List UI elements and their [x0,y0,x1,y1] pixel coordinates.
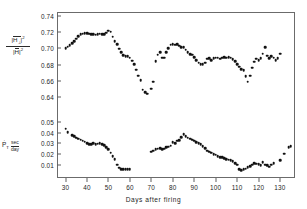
dot-accent: · [4,138,6,143]
upper-y-axis-label: |H⊥|2 |H|2 [4,36,32,55]
x-tick-label: 40 [83,184,91,191]
x-tick-mark [194,178,195,182]
x-tick-label: 110 [232,184,243,191]
lower-data-point [129,168,132,171]
upper-data-point [167,47,170,50]
lower-data-point [272,162,275,165]
t-subscript: T [6,146,9,151]
x-tick-label: 50 [105,184,113,191]
lower-y-tick-label: 0.04 [41,129,54,136]
upper-data-point [193,56,196,59]
lower-data-point [66,131,69,134]
x-tick-mark [151,178,152,182]
perp-subscript: ⊥ [18,40,21,45]
x-tick-mark [215,178,216,182]
upper-data-point [249,74,252,77]
upper-data-point [73,40,76,43]
upper-data-point [111,35,114,38]
upper-y-tick-label: 0.68 [41,61,54,68]
upper-data-point [133,63,136,66]
denominator-exponent: 2 [21,47,23,52]
upper-y-numerator: |H⊥|2 [4,36,32,46]
lower-y-tick-label: 0.01 [41,162,54,169]
upper-data-point [277,57,280,60]
upper-y-tick-label: 0.64 [41,94,54,101]
upper-y-tick-label: 0.74 [41,12,54,19]
upper-data-point [109,30,112,33]
x-tick-label: 90 [190,184,198,191]
upper-data-point [279,52,282,55]
upper-data-point [150,88,153,91]
upper-data-point [251,66,254,69]
upper-data-point [154,60,157,63]
upper-data-point [156,53,159,56]
scatter-figure: |H⊥|2 |H|2 P·T sec day 0.740.720.700.680… [0,0,307,209]
lower-data-point [64,128,67,131]
p-dot-symbol: P·T [2,141,9,150]
x-tick-label: 70 [148,184,156,191]
upper-data-point [137,74,140,77]
upper-data-point [244,75,247,78]
plot-area [57,12,295,178]
x-tick-label: 130 [274,184,285,191]
lower-y-axis-label: P·T sec day [2,140,36,152]
upper-data-point [118,47,121,50]
upper-data-point [75,37,78,40]
upper-data-point [71,42,74,45]
lower-data-point [107,148,110,151]
x-tick-mark [237,178,238,182]
upper-data-point [159,51,162,54]
upper-y-tick-label: 0.66 [41,78,54,85]
lower-data-point [116,163,119,166]
upper-data-point [131,59,134,62]
upper-data-point [247,80,250,83]
lower-data-point [283,152,286,155]
x-tick-label: 100 [210,184,221,191]
x-tick-mark [108,178,109,182]
x-tick-mark [279,178,280,182]
lower-data-point [236,163,239,166]
upper-data-point [253,61,256,64]
lower-data-point [289,145,292,148]
x-tick-label: 80 [169,184,177,191]
upper-y-denominator: |H|2 [4,48,32,56]
unit-fraction: sec day [11,140,19,152]
upper-data-point [146,92,149,95]
lower-data-point [259,164,262,167]
numerator-exponent: 2 [22,35,24,40]
lower-data-point [279,159,282,162]
upper-data-point [139,79,142,82]
x-tick-label: 60 [126,184,134,191]
lower-data-point [111,155,114,158]
lower-data-point [109,151,112,154]
unit-numerator: sec [11,140,19,145]
lower-y-tick-label: 0.03 [41,140,54,147]
lower-data-point [178,139,181,142]
lower-data-point [114,158,117,161]
upper-data-point [116,43,119,46]
x-axis-title: Days after firing [0,196,307,203]
x-tick-label: 120 [253,184,264,191]
overbar-h-perp: H⊥ [13,36,20,46]
upper-y-tick-label: 0.72 [41,29,54,36]
upper-data-point [262,52,265,55]
x-tick-mark [129,178,130,182]
x-tick-mark [172,178,173,182]
upper-data-point [264,46,267,49]
overbar-h: H [15,48,19,55]
upper-data-point [152,80,155,83]
lower-data-point [180,136,183,139]
x-tick-mark [87,178,88,182]
upper-data-point [204,61,207,64]
lower-y-tick-label: 0.02 [41,151,54,158]
lower-y-tick-label: 0.05 [41,118,54,125]
upper-data-point [259,57,262,60]
lower-data-point [169,145,172,148]
x-tick-mark [65,178,66,182]
upper-data-point [163,56,166,59]
upper-data-point [165,51,168,54]
upper-data-point [242,69,245,72]
x-tick-mark [258,178,259,182]
unit-denominator: day [11,147,19,152]
x-tick-label: 30 [62,184,70,191]
